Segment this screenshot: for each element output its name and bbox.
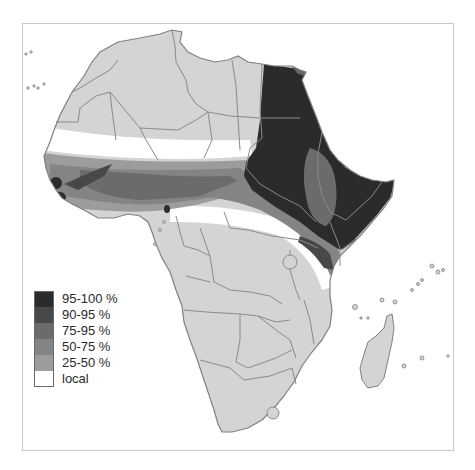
region-95-100-nigeria-spot (164, 205, 170, 213)
legend: 95-100 % 90-95 % 75-95 % 50-75 % 25-50 %… (34, 291, 118, 387)
legend-item-25-50: 25-50 % (34, 355, 118, 371)
madagascar (360, 314, 394, 388)
legend-label: 25-50 % (62, 355, 110, 371)
lake-victoria (283, 255, 297, 269)
legend-swatch (34, 291, 54, 307)
africa-map (0, 0, 475, 470)
lesotho (267, 407, 279, 419)
legend-swatch (34, 371, 54, 387)
legend-swatch (34, 339, 54, 355)
legend-label: 75-95 % (62, 323, 110, 339)
legend-item-local: local (34, 371, 118, 387)
legend-swatch (34, 355, 54, 371)
region-95-100-guinea (54, 192, 66, 204)
legend-item-75-95: 75-95 % (34, 323, 118, 339)
legend-label: local (62, 371, 89, 387)
legend-swatch (34, 323, 54, 339)
legend-swatch (34, 307, 54, 323)
legend-item-90-95: 90-95 % (34, 307, 118, 323)
legend-label: 95-100 % (62, 291, 118, 307)
legend-item-95-100: 95-100 % (34, 291, 118, 307)
legend-label: 90-95 % (62, 307, 110, 323)
legend-item-50-75: 50-75 % (34, 339, 118, 355)
legend-label: 50-75 % (62, 339, 110, 355)
